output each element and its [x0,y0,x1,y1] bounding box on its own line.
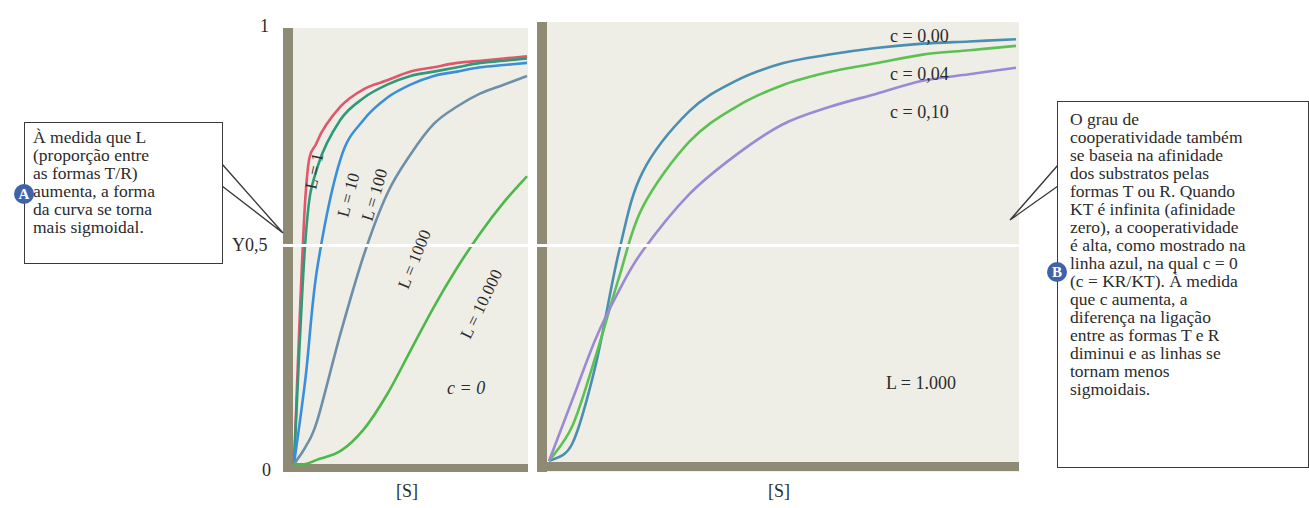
y-tick-half: Y0,5 [232,235,268,256]
label-c010: c = 0,10 [890,102,949,123]
right-annotation-l1000: L = 1.000 [886,373,956,394]
left-annotation-c0: c = 0 [447,378,485,399]
callout-a: À medida que L (proporção entre as forma… [24,122,223,264]
left-x-axis [283,464,528,472]
y-tick-0: 0 [262,460,271,481]
badge-b-icon: B [1047,262,1067,282]
callout-a-pointer [222,164,283,233]
right-x-label: [S] [768,481,790,502]
half-saturation-line [283,244,1019,247]
left-panel [283,28,528,472]
y-tick-1: 1 [260,16,269,37]
badge-a-icon: A [14,184,34,204]
y-tick-half-text: Y0,5 [232,235,268,255]
callout-b: O grau de cooperatividade também se base… [1057,101,1309,468]
left-x-label: [S] [396,481,418,502]
callout-b-text: O grau de cooperatividade também se base… [1070,110,1302,398]
callout-a-text: À medida que L (proporção entre as forma… [33,128,216,236]
right-x-axis [537,462,1019,471]
left-y-axis [283,28,293,472]
label-c004: c = 0,04 [890,64,949,85]
label-c000: c = 0,00 [890,26,949,47]
